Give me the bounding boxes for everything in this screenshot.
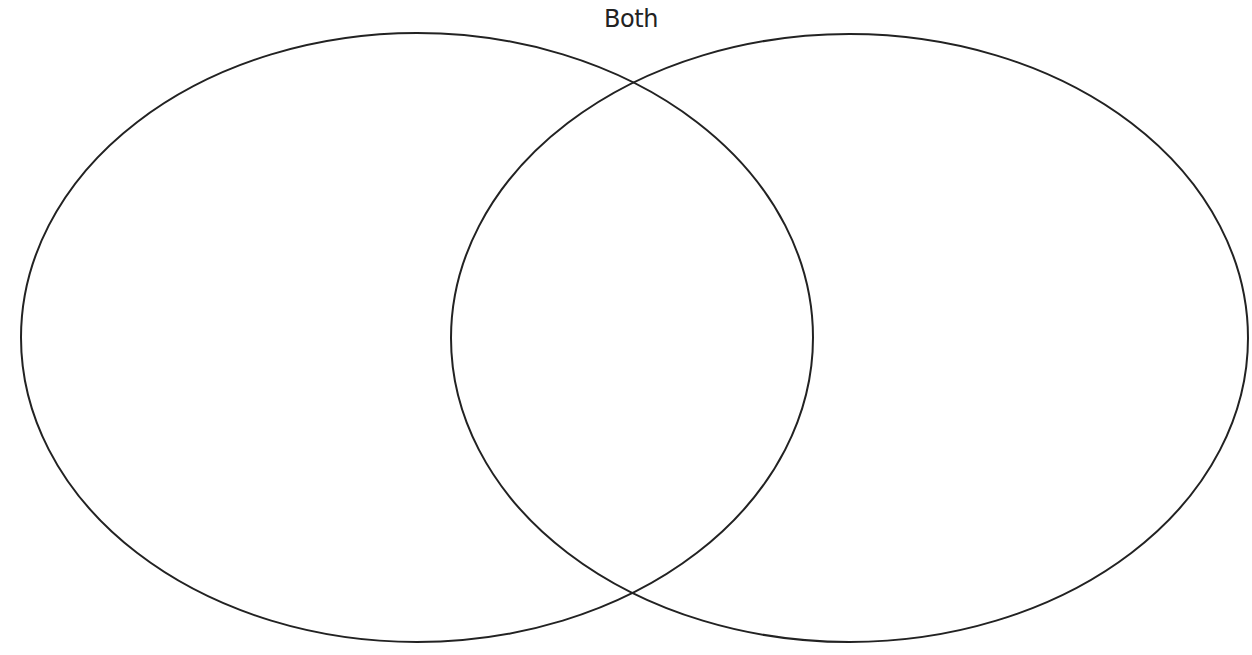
venn-diagram <box>0 0 1252 655</box>
right-set-ellipse <box>451 34 1248 642</box>
left-set-ellipse <box>21 33 813 642</box>
